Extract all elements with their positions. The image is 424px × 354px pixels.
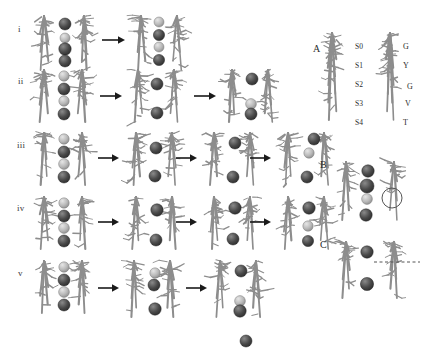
transition-arrow <box>186 282 208 294</box>
filter-state <box>278 195 336 251</box>
water-molecule <box>59 223 70 234</box>
dashed-annotation <box>374 259 420 265</box>
row-label-v: v <box>18 268 23 278</box>
panel-label-C: C <box>320 239 327 250</box>
filter-state <box>128 68 186 124</box>
peptide-strand <box>202 133 224 185</box>
potassium-ion <box>151 78 163 90</box>
water-molecule <box>362 194 373 205</box>
potassium-ion <box>361 246 373 258</box>
peptide-strand <box>257 70 279 122</box>
transition-arrow <box>98 216 120 228</box>
potassium-ion <box>227 233 239 245</box>
transition-arrow <box>102 34 126 46</box>
potassium-ion <box>227 171 239 183</box>
row-label-iv: iv <box>17 203 25 213</box>
water-molecule <box>60 33 70 43</box>
potassium-ion <box>58 235 70 247</box>
potassium-ion <box>149 303 161 315</box>
filter-state <box>34 14 96 72</box>
filter-state <box>210 259 268 319</box>
filter-state <box>131 14 189 72</box>
water-molecule <box>59 71 69 81</box>
filter-state <box>124 259 182 319</box>
filter-state <box>222 68 280 124</box>
water-molecule <box>154 42 164 52</box>
row-label-i: i <box>18 24 21 34</box>
row-label-ii: ii <box>18 76 24 86</box>
peptide-strand <box>332 239 359 298</box>
potassium-ion <box>149 170 161 182</box>
potassium-ion <box>301 171 313 183</box>
peptide-strand <box>127 15 152 70</box>
potassium-ion <box>151 107 163 119</box>
binding-site-label: S2 <box>355 80 363 89</box>
binding-site-label: S4 <box>355 118 363 127</box>
transition-arrow <box>98 152 120 164</box>
peptide-strand <box>160 70 186 122</box>
water-molecule <box>154 17 164 27</box>
potassium-ion <box>235 265 247 277</box>
water-molecule <box>59 96 69 106</box>
peptide-strand <box>204 260 230 317</box>
residue-label: Y <box>403 61 409 70</box>
potassium-ion <box>59 55 71 67</box>
potassium-ion <box>148 279 160 291</box>
peptide-strand <box>382 241 406 298</box>
peptide-strand <box>69 133 97 185</box>
water-molecule <box>59 134 69 144</box>
peptide-strand <box>66 67 97 122</box>
water-molecule <box>59 198 69 208</box>
residue-label: G <box>407 82 413 91</box>
transition-arrow <box>250 216 272 228</box>
peptide-strand <box>219 70 246 122</box>
peptide-strand <box>276 133 303 187</box>
peptide-strand <box>204 197 230 249</box>
peptide-strand <box>121 261 145 318</box>
potassium-ion <box>229 137 241 149</box>
potassium-ion <box>58 299 70 311</box>
row-label-iii: iii <box>17 140 25 150</box>
residue-label: G <box>403 42 409 51</box>
potassium-ion <box>246 73 258 85</box>
transition-arrow <box>98 282 120 294</box>
peptide-strand <box>68 261 90 314</box>
potassium-ion <box>58 274 70 286</box>
free-potassium-ion <box>238 333 254 349</box>
peptide-strand <box>165 16 191 70</box>
transition-arrow <box>176 152 198 164</box>
potassium-ion <box>59 43 71 55</box>
potassium-ion <box>308 133 320 145</box>
peptide-strand <box>69 197 94 249</box>
potassium-ion <box>360 209 372 221</box>
water-molecule <box>59 287 70 298</box>
potassium-ion <box>360 277 373 290</box>
binding-site-label: S3 <box>355 99 363 108</box>
filter-state <box>34 131 94 187</box>
figure-canvas: iiiiiiivvAS0S1S2S3S4GYGVTBC <box>0 0 424 354</box>
potassium-ion <box>58 171 70 183</box>
transition-arrow <box>194 90 217 102</box>
peptide-strand <box>246 261 274 317</box>
panel-label-B: B <box>320 159 327 170</box>
potassium-ion <box>360 179 374 193</box>
water-molecule <box>59 159 70 170</box>
residue-label: V <box>405 99 411 108</box>
peptide-strand <box>376 33 401 120</box>
potassium-ion <box>302 235 313 246</box>
potassium-ion <box>58 83 70 95</box>
peptide-strand <box>34 197 58 249</box>
water-molecule <box>304 148 314 158</box>
potassium-ion <box>234 305 246 317</box>
potassium-ion <box>58 210 70 222</box>
water-molecule <box>303 221 313 231</box>
transition-arrow <box>100 90 123 102</box>
filter-state <box>34 195 94 251</box>
peptide-strand <box>73 15 98 70</box>
filter-state <box>34 68 94 124</box>
free-potassium-ion <box>306 131 322 147</box>
peptide-strand <box>35 261 58 313</box>
filter-state <box>34 259 94 315</box>
potassium-ion <box>153 29 164 40</box>
transition-arrow <box>176 216 198 228</box>
